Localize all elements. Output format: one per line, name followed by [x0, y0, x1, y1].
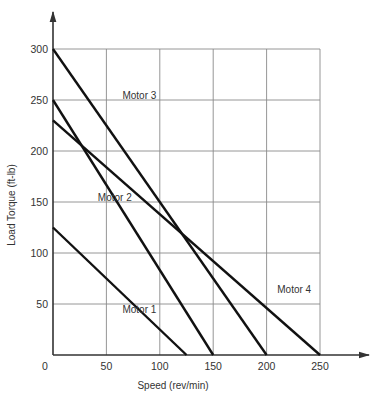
y-tick-label: 200 — [30, 145, 48, 157]
grid-lines — [53, 49, 320, 355]
x-tick-label: 0 — [42, 360, 48, 372]
series-label: Motor 3 — [122, 90, 156, 101]
x-tick-label: 200 — [258, 360, 276, 372]
x-tick-label: 150 — [204, 360, 222, 372]
x-axis-label: Speed (rev/min) — [137, 380, 208, 391]
series-labels: Motor 1Motor 2Motor 3Motor 4 — [98, 90, 312, 315]
x-tick-label: 250 — [311, 360, 329, 372]
series-motor-1 — [53, 228, 187, 356]
x-tick-label: 100 — [151, 360, 169, 372]
series-motor-4 — [53, 120, 320, 355]
y-tick-label: 50 — [36, 298, 48, 310]
x-tick-label: 50 — [101, 360, 113, 372]
series-motor-2 — [53, 100, 213, 355]
y-tick-label: 300 — [30, 43, 48, 55]
series-label: Motor 1 — [122, 304, 156, 315]
y-tick-label: 250 — [30, 94, 48, 106]
y-tick-label: 100 — [30, 247, 48, 259]
y-tick-label: 150 — [30, 196, 48, 208]
y-axis-label: Load Torque (ft-lb) — [6, 164, 17, 246]
series-label: Motor 4 — [277, 284, 311, 295]
series-label: Motor 2 — [98, 192, 132, 203]
torque-speed-chart: 05010015020025050100150200250300 Motor 1… — [0, 0, 380, 404]
